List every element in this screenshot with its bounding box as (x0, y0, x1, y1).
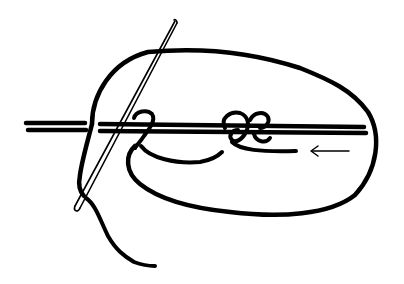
left-knot-lower-strand (141, 146, 222, 162)
knot-diagram (0, 0, 404, 284)
direction-arrow-icon (311, 146, 349, 156)
needle-icon (75, 20, 177, 211)
rod-right-top (100, 124, 364, 127)
thread-tail (86, 198, 155, 266)
